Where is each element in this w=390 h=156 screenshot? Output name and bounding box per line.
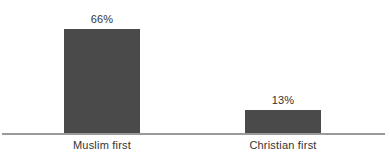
x-axis-tick-label-muslim-first: Muslim first	[37, 139, 167, 152]
bar-value-label: 66%	[64, 13, 140, 25]
x-axis-tick-label-christian-first: Christian first	[218, 139, 348, 152]
bar-muslim-first[interactable]	[64, 29, 140, 134]
x-axis-line	[2, 133, 385, 135]
bar-christian-first[interactable]	[245, 110, 321, 134]
plot-area: 66% 13%	[0, 0, 390, 134]
bar-value-label: 13%	[245, 94, 321, 106]
bar-chart: 66% 13% Muslim first Christian first	[0, 0, 390, 156]
